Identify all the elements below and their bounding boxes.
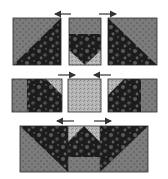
half-square-triangle-right (108, 18, 157, 65)
half-square-triangle-left (13, 18, 61, 65)
flying-goose-center (69, 18, 101, 65)
center-square (68, 79, 101, 112)
bottom-row-strip (20, 126, 148, 172)
side-unit-right (108, 79, 157, 112)
quilt-assembly-diagram (0, 0, 168, 179)
side-unit-left (12, 79, 62, 112)
